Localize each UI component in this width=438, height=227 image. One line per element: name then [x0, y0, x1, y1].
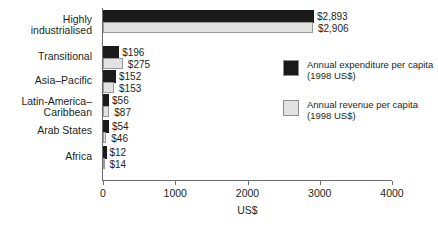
bar-value-label: $152 [119, 71, 141, 82]
x-axis-tick-label: 1000 [164, 187, 187, 199]
legend-label: Annual revenue per capita (1998 US$) [307, 99, 435, 121]
x-axis-tick [103, 181, 104, 185]
x-axis-tick [175, 181, 176, 185]
bar-value-label: $153 [119, 83, 141, 94]
bar [103, 22, 313, 33]
bar-value-label: $87 [114, 107, 131, 118]
legend-swatch-revenue [283, 100, 299, 116]
x-axis-tick-label: 4000 [380, 187, 403, 199]
category-label: Transitional [0, 51, 92, 63]
bar [103, 82, 114, 93]
bar-value-label: $54 [112, 121, 129, 132]
bar-value-label: $14 [110, 159, 127, 170]
x-axis-tick-label: 2000 [236, 187, 259, 199]
x-axis-tick [320, 181, 321, 185]
category-label: Asia–Pacific [0, 75, 92, 87]
x-axis-title: US$ [103, 204, 392, 216]
x-axis-tick [392, 181, 393, 185]
category-label: Highly industrialised [0, 14, 92, 37]
bar [103, 158, 105, 169]
bar-value-label: $2,893 [317, 11, 348, 22]
bar-value-label: $56 [112, 95, 129, 106]
bar [103, 106, 109, 117]
category-label: Arab States [0, 125, 92, 137]
category-label: Latin-America– Caribbean [0, 96, 92, 119]
legend-swatch-expenditure [283, 60, 299, 76]
x-axis-tick-label: 0 [100, 187, 106, 199]
bar-value-label: $196 [122, 47, 144, 58]
bar-chart: Highly industrialisedTransitionalAsia–Pa… [0, 0, 438, 227]
legend-label: Annual expenditure per capita (1998 US$) [307, 59, 435, 81]
x-axis-tick-label: 3000 [308, 187, 331, 199]
plot-area: $2,893$196$152$56$54$12$2,906$275$153$87… [103, 8, 392, 180]
bar [103, 132, 106, 143]
x-axis-tick [248, 181, 249, 185]
category-label: Africa [0, 151, 92, 163]
bar-value-label: $46 [111, 133, 128, 144]
bar [103, 58, 123, 69]
bar-value-label: $275 [128, 59, 150, 70]
bar-value-label: $12 [110, 147, 127, 158]
bar-value-label: $2,906 [318, 23, 349, 34]
